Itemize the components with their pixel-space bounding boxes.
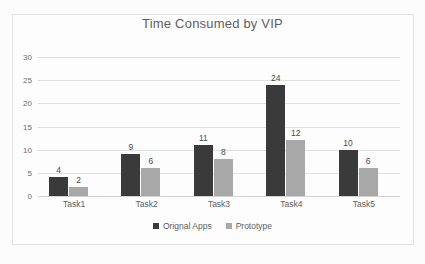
gridline xyxy=(38,196,400,197)
y-axis-tick-label: 30 xyxy=(23,53,32,62)
bar-group: 42 xyxy=(38,57,110,196)
bar[interactable]: 24 xyxy=(266,85,285,196)
bar-group: 2412 xyxy=(255,57,327,196)
chart-legend: Orignal AppsPrototype xyxy=(0,221,425,231)
bar[interactable]: 11 xyxy=(194,145,213,196)
bar-group: 106 xyxy=(328,57,400,196)
bar-value-label: 24 xyxy=(271,73,280,83)
bar-group: 96 xyxy=(110,57,182,196)
bar-value-label: 6 xyxy=(366,156,371,166)
bar-value-label: 2 xyxy=(76,175,81,185)
bar[interactable]: 8 xyxy=(214,159,233,196)
bar-value-label: 11 xyxy=(199,133,208,143)
y-axis-tick-label: 20 xyxy=(23,99,32,108)
bar-group: 118 xyxy=(183,57,255,196)
legend-label: Orignal Apps xyxy=(163,221,212,231)
x-axis-category-label: Task5 xyxy=(353,199,375,209)
bar-value-label: 10 xyxy=(343,138,352,148)
bar[interactable]: 9 xyxy=(121,154,140,196)
bar[interactable]: 2 xyxy=(69,187,88,196)
x-axis-category-label: Task3 xyxy=(208,199,230,209)
y-axis-tick-label: 25 xyxy=(23,76,32,85)
bar-value-label: 4 xyxy=(56,165,61,175)
bar[interactable]: 12 xyxy=(286,140,305,196)
x-axis-category-label: Task4 xyxy=(280,199,302,209)
legend-swatch-icon xyxy=(153,223,159,229)
legend-item[interactable]: Orignal Apps xyxy=(153,221,212,231)
y-axis-tick-label: 5 xyxy=(28,168,32,177)
bar[interactable]: 6 xyxy=(359,168,378,196)
bar-value-label: 6 xyxy=(149,156,154,166)
y-axis-tick-label: 0 xyxy=(28,192,32,201)
x-axis-category-labels: Task1Task2Task3Task4Task5 xyxy=(38,199,400,213)
bar-value-label: 9 xyxy=(129,142,134,152)
bar[interactable]: 4 xyxy=(49,177,68,196)
x-axis-category-label: Task2 xyxy=(135,199,157,209)
plot-area: 051015202530 42961182412106 xyxy=(38,57,400,196)
y-axis-tick-label: 15 xyxy=(23,122,32,131)
chart-title: Time Consumed by VIP xyxy=(0,16,425,31)
bar-series-layer: 42961182412106 xyxy=(38,57,400,196)
y-axis-tick-label: 10 xyxy=(23,145,32,154)
legend-label: Prototype xyxy=(236,221,272,231)
legend-swatch-icon xyxy=(226,223,232,229)
x-axis-category-label: Task1 xyxy=(63,199,85,209)
bar[interactable]: 10 xyxy=(339,150,358,196)
bar[interactable]: 6 xyxy=(141,168,160,196)
bar-value-label: 12 xyxy=(291,128,300,138)
bar-value-label: 8 xyxy=(221,147,226,157)
chart-figure: Time Consumed by VIP 051015202530 429611… xyxy=(0,0,425,264)
legend-item[interactable]: Prototype xyxy=(226,221,272,231)
